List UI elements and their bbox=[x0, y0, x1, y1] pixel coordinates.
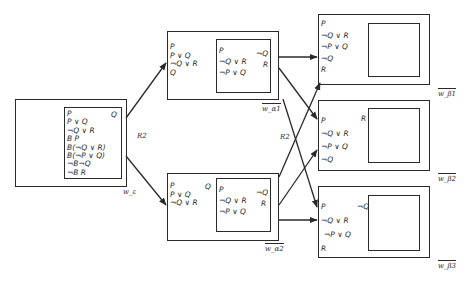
formula: P bbox=[219, 184, 247, 195]
formula: ¬P ∨ Q bbox=[321, 41, 349, 53]
formula: R bbox=[321, 64, 349, 76]
world-label-w-b1: w_β1 bbox=[438, 88, 456, 98]
formula: P bbox=[219, 45, 247, 56]
world-w-b2-inner bbox=[368, 108, 420, 163]
edge-a1-b2 bbox=[279, 68, 317, 119]
formula: ¬Q ∨ R bbox=[219, 195, 247, 206]
formula: ¬P ∨ Q bbox=[219, 206, 247, 217]
formula: ¬Q bbox=[256, 187, 268, 198]
formula: R bbox=[256, 198, 268, 209]
w-eps-inner-formulas: P P ∨ Q ¬Q ∨ R B P B(¬Q ∨ R) B(¬P ∨ Q) ¬… bbox=[67, 110, 106, 177]
formula: ¬Q ∨ R bbox=[321, 30, 349, 42]
w-a2-inner-formulas: P ¬Q ∨ R ¬P ∨ Q bbox=[219, 184, 247, 217]
relation-label-r2-left: R2 bbox=[137, 132, 147, 140]
edge-eps-a2 bbox=[126, 156, 166, 205]
edge-a2-b1 bbox=[279, 83, 320, 177]
w-a2-outer-right-q: Q bbox=[205, 182, 211, 192]
world-w-b3-inner bbox=[368, 195, 420, 251]
formula: R bbox=[256, 59, 268, 70]
w-b3-outer-formulas: P ¬Q ∨ R ¬P ∨ Q R bbox=[321, 200, 351, 256]
world-label-w-a2: w_α2 bbox=[265, 243, 284, 253]
w-a1-inner-formulas: P ¬Q ∨ R ¬P ∨ Q bbox=[219, 45, 247, 78]
edge-eps-a1 bbox=[126, 63, 166, 118]
world-label-w-a1: w_α1 bbox=[262, 103, 281, 113]
formula: ¬Q ∨ R bbox=[321, 214, 351, 228]
world-label-w-b2: w_β2 bbox=[438, 173, 456, 183]
w-b2-outer-right-r: R bbox=[361, 114, 366, 124]
formula: ¬Q bbox=[321, 53, 349, 65]
formula: ¬Q ∨ R bbox=[170, 199, 198, 208]
world-label-w-eps: w_ε bbox=[123, 188, 136, 196]
formula: ¬Q bbox=[256, 48, 268, 59]
formula: ¬P ∨ Q bbox=[321, 140, 349, 153]
formula: ¬P ∨ Q bbox=[219, 67, 247, 78]
relation-label-r2-right: R2 bbox=[280, 133, 290, 141]
formula: ¬Q bbox=[321, 153, 349, 166]
w-a1-inner-right: ¬Q R bbox=[256, 48, 268, 70]
formula: ¬B R bbox=[67, 169, 106, 177]
w-eps-inner-right-q: Q bbox=[111, 110, 117, 120]
w-a1-outer-formulas: P P ∨ Q ¬Q ∨ R Q bbox=[170, 43, 198, 77]
world-w-b1-inner bbox=[368, 23, 420, 77]
w-b3-outer-right-negq: ¬Q bbox=[357, 202, 369, 212]
edge-a2-b2 bbox=[279, 150, 317, 205]
w-b2-outer-formulas: P ¬Q ∨ R ¬P ∨ Q ¬Q bbox=[321, 114, 349, 166]
w-a2-outer-formulas: P P ∨ Q ¬Q ∨ R bbox=[170, 182, 198, 208]
w-a2-inner-right: ¬Q R bbox=[256, 187, 268, 209]
formula: P bbox=[321, 18, 349, 30]
formula: ¬P ∨ Q bbox=[321, 228, 351, 242]
formula: ¬Q ∨ R bbox=[321, 127, 349, 140]
formula: ¬Q ∨ R bbox=[219, 56, 247, 67]
formula: P bbox=[321, 200, 351, 214]
formula: Q bbox=[170, 69, 198, 78]
w-b1-outer-formulas: P ¬Q ∨ R ¬P ∨ Q ¬Q R bbox=[321, 18, 349, 76]
formula: P bbox=[321, 114, 349, 127]
world-label-w-b3: w_β3 bbox=[438, 260, 456, 270]
formula: R bbox=[321, 242, 351, 256]
